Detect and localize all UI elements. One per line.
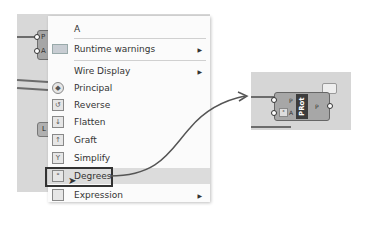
- input-label-p: P: [289, 97, 293, 104]
- prot-component[interactable]: ° P A PRot P: [274, 92, 330, 121]
- input-port-p[interactable]: [271, 97, 277, 103]
- input-port-a[interactable]: [271, 110, 277, 116]
- output-label-p: P: [315, 103, 319, 110]
- output-port-p[interactable]: [327, 103, 333, 109]
- wire: [251, 126, 291, 128]
- input-label-a: A: [289, 109, 293, 116]
- component-title: PRot: [296, 94, 308, 119]
- degrees-icon: °: [279, 108, 288, 117]
